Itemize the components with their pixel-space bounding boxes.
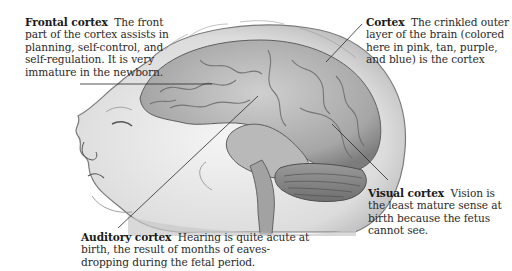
label-cortex: Cortex The crinkled outer layer of the b… [366,16,512,66]
term-auditory-cortex: Auditory cortex [81,231,171,243]
label-auditory-cortex: Auditory cortex Hearing is quite acute a… [81,231,311,268]
term-frontal-cortex: Frontal cortex [25,16,108,28]
label-frontal-cortex: Frontal cortex The front part of the cor… [25,16,175,78]
term-visual-cortex: Visual cortex [368,187,444,199]
term-cortex: Cortex [366,16,404,28]
label-visual-cortex: Visual cortex Vision is the least mature… [368,187,508,237]
